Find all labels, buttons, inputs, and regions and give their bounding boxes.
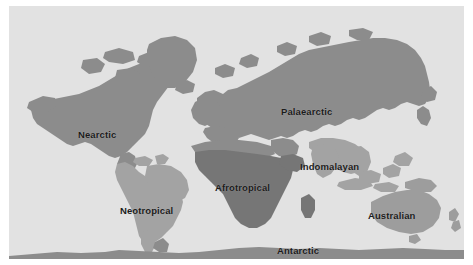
- realm-label-australian: Australian: [368, 211, 415, 221]
- realm-label-antarctic: Antarctic: [277, 246, 319, 256]
- realm-label-neotropical: Neotropical: [120, 206, 173, 216]
- realm-label-afrotropical: Afrotropical: [215, 183, 270, 193]
- map-canvas: Nearctic Neotropical Palaearctic Afrotro…: [9, 6, 464, 259]
- realm-label-nearctic: Nearctic: [78, 130, 116, 140]
- realm-label-indomalayan: Indomalayan: [300, 162, 359, 172]
- world-map-figure: Nearctic Neotropical Palaearctic Afrotro…: [0, 0, 473, 265]
- realm-label-palaearctic: Palaearctic: [281, 107, 332, 117]
